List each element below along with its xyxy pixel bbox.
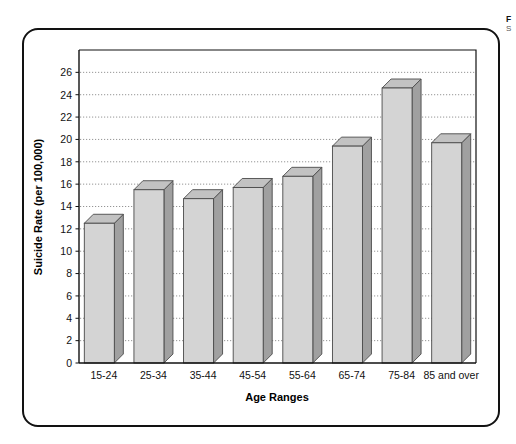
figure-caption-title: F — [506, 14, 516, 24]
figure-caption-subtitle: S — [506, 24, 516, 34]
figure-caption: F S — [506, 14, 516, 34]
figure-border — [22, 28, 500, 427]
